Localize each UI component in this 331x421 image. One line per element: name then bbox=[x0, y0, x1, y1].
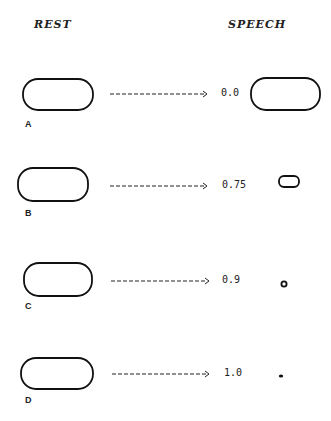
rest-oval-b bbox=[18, 168, 88, 201]
value-a: 0.0 bbox=[221, 87, 239, 98]
label-b: B bbox=[25, 208, 32, 218]
value-b: 0.75 bbox=[222, 179, 246, 190]
rest-oval-c bbox=[24, 263, 92, 296]
rest-oval-d bbox=[21, 358, 93, 389]
label-d: D bbox=[25, 395, 32, 405]
value-c: 0.9 bbox=[222, 274, 240, 285]
label-a: A bbox=[25, 119, 32, 129]
speech-oval-d bbox=[279, 374, 283, 377]
diagram-canvas bbox=[0, 0, 331, 421]
value-d: 1.0 bbox=[224, 367, 242, 378]
speech-oval-c bbox=[281, 281, 286, 286]
speech-oval-b bbox=[279, 176, 299, 187]
rest-oval-a bbox=[23, 79, 93, 110]
speech-oval-a bbox=[251, 78, 320, 110]
label-c: C bbox=[25, 301, 32, 311]
